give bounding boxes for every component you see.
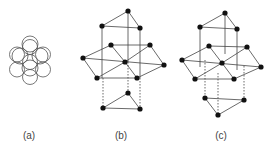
figure <box>0 0 273 150</box>
circle-packing-a <box>12 36 48 76</box>
circle-packing-a-real <box>10 40 51 85</box>
label-a: (a) <box>23 130 35 141</box>
label-c: (c) <box>215 130 227 141</box>
label-b: (b) <box>115 130 127 141</box>
lattice-c-nodes <box>179 10 263 117</box>
